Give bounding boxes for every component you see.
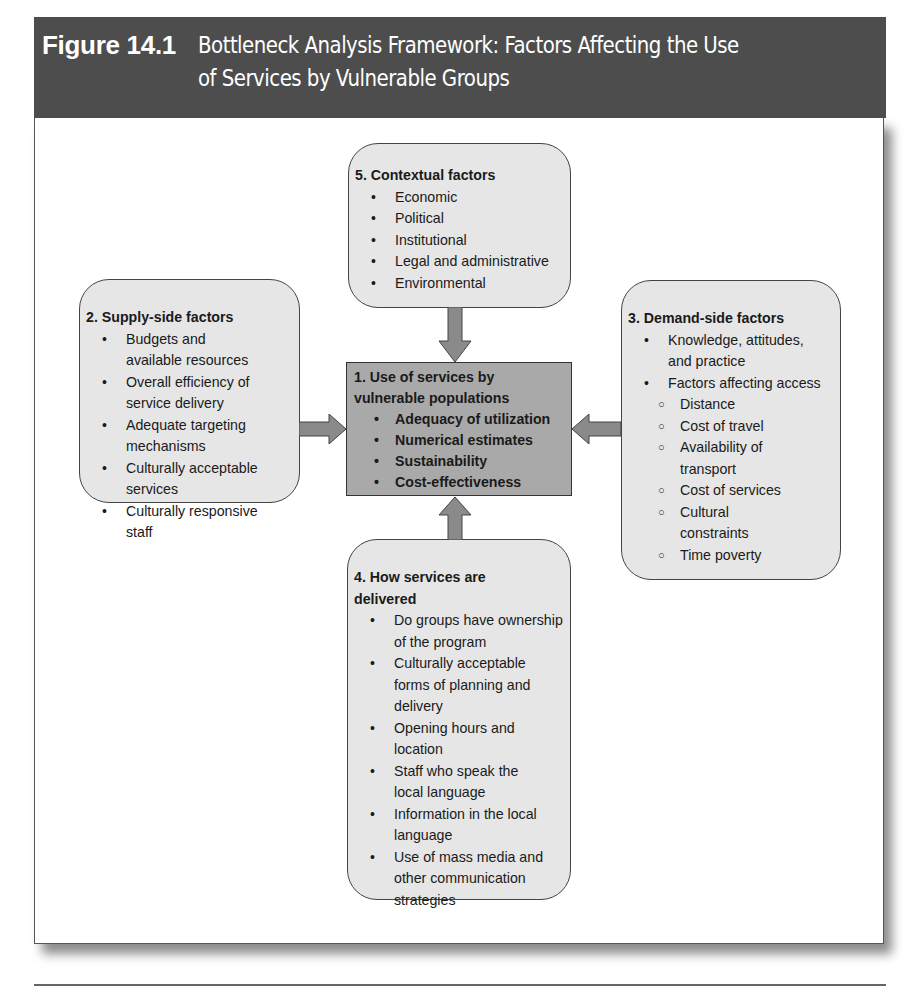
sub-list-item: Cost of services [628, 480, 833, 502]
figure-title: Bottleneck Analysis Framework: Factors A… [198, 29, 877, 95]
figure-title-line-1: Bottleneck Analysis Framework: Factors A… [198, 29, 877, 62]
figure-label: Figure 14.1 [42, 30, 176, 61]
sub-list-item: Availability of transport [628, 437, 833, 480]
list-item: Cost-effectiveness [354, 472, 571, 493]
contextual-factors-box: 5. Contextual factors Economic Political… [348, 143, 571, 308]
how-services-delivered-heading: 4. How services are delivered [354, 567, 524, 610]
contextual-factors-heading: 5. Contextual factors [355, 165, 570, 187]
list-item: Culturally responsive staff [86, 501, 286, 544]
demand-side-factors-heading: 3. Demand-side factors [628, 308, 840, 330]
arrow-left-icon [571, 413, 622, 445]
arrow-right-icon [299, 413, 347, 445]
contextual-factors-list: Economic Political Institutional Legal a… [355, 187, 570, 295]
list-item: Overall efficiency of service delivery [86, 372, 286, 415]
list-item: Staff who speak the local language [354, 761, 569, 804]
list-item: Numerical estimates [354, 430, 571, 451]
list-item: Budgets and available resources [86, 329, 286, 372]
how-services-delivered-list: Do groups have ownership of the program … [354, 610, 569, 911]
list-item: Legal and administrative [355, 251, 570, 273]
list-item: Institutional [355, 230, 570, 252]
center-heading-line-2: vulnerable populations [354, 388, 571, 409]
list-item: Adequate targeting mechanisms [86, 415, 286, 458]
list-item: Culturally acceptable services [86, 458, 286, 501]
sub-list-item: Cultural constraints [628, 502, 833, 545]
supply-side-factors-box: 2. Supply-side factors Budgets and avail… [79, 279, 300, 503]
demand-side-factors-box: 3. Demand-side factors Knowledge, attitu… [621, 280, 841, 580]
figure-header: Figure 14.1 Bottleneck Analysis Framewor… [34, 17, 886, 118]
list-item: Knowledge, attitudes, and practice [628, 330, 833, 373]
list-item: Adequacy of utilization [354, 409, 571, 430]
figure-title-line-2: of Services by Vulnerable Groups [198, 62, 877, 95]
supply-side-factors-heading: 2. Supply-side factors [86, 307, 299, 329]
list-item: Opening hours and location [354, 718, 569, 761]
list-item: Economic [355, 187, 570, 209]
list-item: Environmental [355, 273, 570, 295]
list-item: Use of mass media and other communicatio… [354, 847, 569, 912]
list-item: Sustainability [354, 451, 571, 472]
arrow-down-icon [438, 307, 472, 363]
sub-list-item: Cost of travel [628, 416, 833, 438]
list-item: Do groups have ownership of the program [354, 610, 569, 653]
sub-list-item: Time poverty [628, 545, 833, 567]
use-of-services-center-box: 1. Use of services by vulnerable populat… [346, 362, 572, 496]
list-item: Information in the local language [354, 804, 569, 847]
how-services-delivered-box: 4. How services are delivered Do groups … [347, 539, 571, 900]
center-heading-line-1: 1. Use of services by [354, 367, 571, 388]
center-list: Adequacy of utilization Numerical estima… [354, 409, 571, 493]
arrow-up-icon [438, 496, 472, 540]
list-item: Culturally acceptable forms of planning … [354, 653, 569, 718]
supply-side-factors-list: Budgets and available resources Overall … [86, 329, 286, 544]
list-item: Political [355, 208, 570, 230]
list-item: Factors affecting access [628, 373, 833, 395]
sub-list-item: Distance [628, 394, 833, 416]
bottom-rule-divider [34, 984, 886, 986]
demand-side-factors-list: Knowledge, attitudes, and practice Facto… [628, 330, 833, 567]
